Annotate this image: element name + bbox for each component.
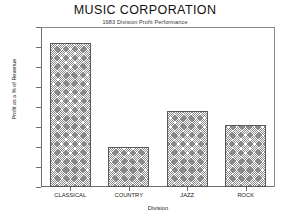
bar-rock bbox=[225, 125, 266, 187]
x-axis-tick-label: JAZZ bbox=[158, 192, 217, 198]
x-axis-title: Division bbox=[41, 205, 275, 211]
y-axis-tick-mark bbox=[36, 187, 41, 188]
y-axis-tick-mark bbox=[36, 107, 41, 108]
bar-classical bbox=[50, 43, 91, 187]
bar-jazz bbox=[167, 111, 208, 187]
y-axis-tick-mark bbox=[36, 147, 41, 148]
x-axis-tick-mark bbox=[70, 187, 71, 191]
x-axis-tick-label: ROCK bbox=[217, 192, 276, 198]
y-axis-tick-mark bbox=[36, 87, 41, 88]
y-axis-tick-mark bbox=[36, 127, 41, 128]
y-axis-tick-mark bbox=[36, 47, 41, 48]
x-axis-tick-label: CLASSICAL bbox=[41, 192, 100, 198]
x-axis-tick-mark bbox=[129, 187, 130, 191]
chart-title: MUSIC CORPORATION bbox=[0, 3, 290, 17]
bar-country bbox=[108, 147, 149, 187]
bar-chart: MUSIC CORPORATION 1983 Division Profit P… bbox=[0, 0, 290, 224]
x-axis-tick-label: COUNTRY bbox=[100, 192, 159, 198]
y-axis-tick-mark bbox=[36, 27, 41, 28]
y-axis-tick-mark bbox=[36, 67, 41, 68]
x-axis-tick-mark bbox=[187, 187, 188, 191]
y-axis-title: Profit as a % of Revenue bbox=[11, 29, 17, 149]
y-axis-tick-mark bbox=[36, 167, 41, 168]
chart-subtitle: 1983 Division Profit Performance bbox=[0, 19, 290, 25]
bars-layer bbox=[42, 28, 274, 187]
x-axis-tick-mark bbox=[246, 187, 247, 191]
